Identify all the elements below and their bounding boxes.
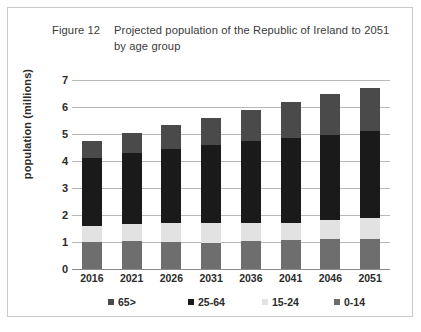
y-axis-tick-label: 3 [46,182,68,194]
bar-group-2016[interactable] [82,80,102,269]
y-axis-tick-label: 0 [46,263,68,275]
legend-item-65>[interactable]: 65> [108,296,136,308]
bar-segment-15-24[interactable] [320,220,340,239]
bar-segment-65>[interactable] [122,133,142,153]
bar-segment-0-14[interactable] [241,241,261,269]
y-axis-tick-label: 4 [46,155,68,167]
y-axis-tick-label: 6 [46,101,68,113]
bar-segment-25-64[interactable] [241,141,261,223]
bar-segment-25-64[interactable] [320,135,340,220]
y-axis-tick-labels: 01234567 [46,72,68,277]
plot-area [72,80,390,269]
y-axis-tick-label: 7 [46,74,68,86]
bar-segment-15-24[interactable] [360,218,380,239]
x-axis-tick-label: 2031 [199,272,222,284]
bar-segment-65>[interactable] [82,141,102,159]
bar-segment-0-14[interactable] [360,239,380,270]
chart-legend: 65>25-6415-240-14 [72,296,390,314]
bar-segment-25-64[interactable] [82,158,102,226]
y-axis-tick-label: 1 [46,236,68,248]
legend-label: 15-24 [272,296,299,308]
bar-segment-65>[interactable] [241,110,261,141]
bar-segment-0-14[interactable] [201,243,221,269]
legend-swatch-icon [262,299,268,305]
x-axis-tick-label: 2021 [120,272,143,284]
bar-group-2036[interactable] [241,80,261,269]
chart-container: population (millions) 01234567 201620212… [0,0,421,332]
bar-group-2041[interactable] [281,80,301,269]
bar-segment-15-24[interactable] [161,223,181,242]
x-axis-tick-label: 2041 [279,272,302,284]
bar-segment-25-64[interactable] [281,138,301,223]
x-axis-tick-label: 2036 [239,272,262,284]
bar-group-2031[interactable] [201,80,221,269]
bar-segment-15-24[interactable] [122,224,142,240]
bar-group-2046[interactable] [320,80,340,269]
bar-segment-25-64[interactable] [201,145,221,223]
x-axis-tick-labels: 20162021202620312036204120462051 [72,272,390,288]
bar-segment-15-24[interactable] [281,223,301,241]
legend-label: 25-64 [198,296,225,308]
x-axis-tick-label: 2046 [319,272,342,284]
legend-item-25-64[interactable]: 25-64 [188,296,225,308]
legend-swatch-icon [334,299,340,305]
bar-segment-15-24[interactable] [82,226,102,242]
bar-segment-65>[interactable] [161,125,181,149]
legend-item-15-24[interactable]: 15-24 [262,296,299,308]
bar-segment-25-64[interactable] [360,131,380,217]
bar-series-layer [72,80,390,269]
legend-swatch-icon [188,299,194,305]
bar-segment-0-14[interactable] [122,241,142,269]
figure-page: Figure 12 Projected population of the Re… [0,0,421,332]
bar-segment-15-24[interactable] [241,223,261,241]
y-axis-title: population (millions) [21,44,33,204]
legend-label: 0-14 [344,296,365,308]
legend-item-0-14[interactable]: 0-14 [334,296,365,308]
x-axis-tick-label: 2016 [80,272,103,284]
bar-group-2051[interactable] [360,80,380,269]
bar-segment-65>[interactable] [281,102,301,138]
y-axis-tick-label: 2 [46,209,68,221]
gridline [72,269,390,270]
bar-segment-15-24[interactable] [201,223,221,243]
x-axis-tick-label: 2026 [160,272,183,284]
y-axis-tick-label: 5 [46,128,68,140]
bar-segment-25-64[interactable] [161,149,181,223]
bar-group-2021[interactable] [122,80,142,269]
bar-group-2026[interactable] [161,80,181,269]
bar-segment-0-14[interactable] [281,240,301,269]
bar-segment-0-14[interactable] [161,242,181,269]
x-axis-tick-label: 2051 [358,272,381,284]
legend-label: 65> [118,296,136,308]
bar-segment-0-14[interactable] [320,239,340,269]
bar-segment-65>[interactable] [201,118,221,145]
bar-segment-65>[interactable] [320,94,340,135]
legend-swatch-icon [108,299,114,305]
bar-segment-0-14[interactable] [82,242,102,269]
bar-segment-65>[interactable] [360,88,380,132]
bar-segment-25-64[interactable] [122,153,142,225]
